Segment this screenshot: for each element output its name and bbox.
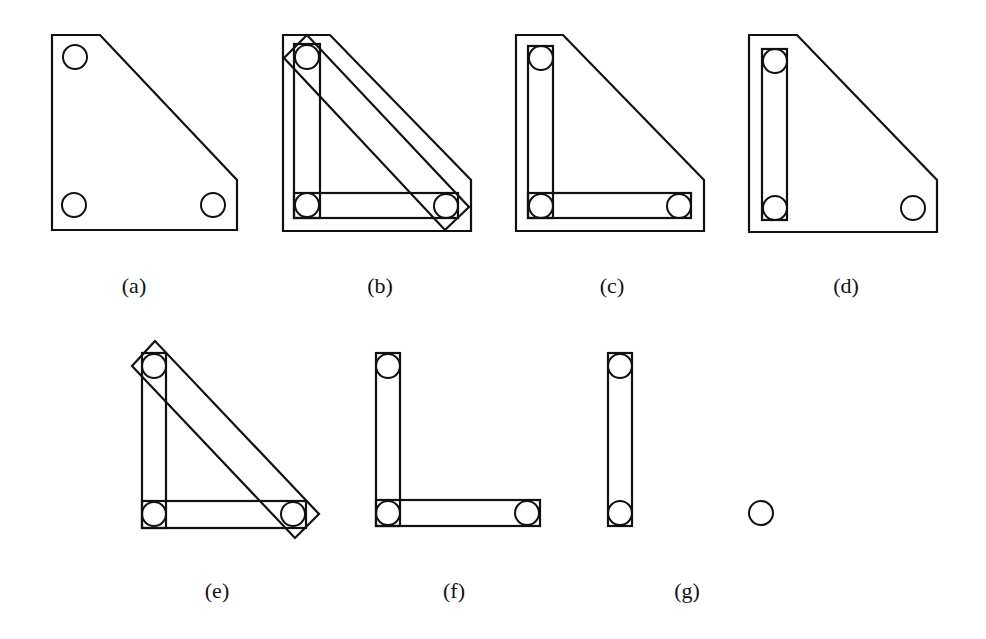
link-rectangle xyxy=(294,44,320,218)
panel-label-d: (d) xyxy=(833,273,859,299)
hole-circle xyxy=(749,501,773,525)
hole-circle xyxy=(667,194,691,218)
panel-label-a: (a) xyxy=(122,273,146,299)
panel-e xyxy=(132,341,319,538)
hole-circle xyxy=(529,46,553,70)
panel-label-b: (b) xyxy=(367,273,393,299)
diagonal-link-rectangle xyxy=(284,35,469,230)
panel-label-e: (e) xyxy=(205,578,229,604)
panel-label-f: (f) xyxy=(443,578,465,604)
panel-label-c: (c) xyxy=(600,273,624,299)
hole-circle xyxy=(295,45,319,69)
hole-circle xyxy=(63,45,87,69)
panel-b xyxy=(283,35,471,231)
hole-circle xyxy=(763,196,787,220)
panel-d xyxy=(749,35,937,232)
hole-circle xyxy=(763,49,787,73)
diagram-figure: (a) (b) (c) (d) (e) (f) (g) xyxy=(0,0,986,639)
hole-circle xyxy=(142,502,166,526)
hole-circle xyxy=(376,501,400,525)
plate-outline xyxy=(283,35,471,231)
hole-circle xyxy=(608,501,632,525)
panel-g xyxy=(608,353,773,526)
hole-circle xyxy=(608,354,632,378)
hole-circle xyxy=(901,196,925,220)
panel-label-g: (g) xyxy=(674,578,700,604)
hole-circle xyxy=(62,193,86,217)
hole-circle xyxy=(281,502,305,526)
panel-a xyxy=(52,35,237,230)
diagram-canvas xyxy=(0,0,986,639)
plate-outline xyxy=(749,35,937,232)
hole-circle xyxy=(515,501,539,525)
plate-outline xyxy=(52,35,237,230)
panel-f xyxy=(376,353,540,526)
plate-outline xyxy=(516,35,704,231)
hole-circle xyxy=(201,193,225,217)
panel-c xyxy=(516,35,704,231)
hole-circle xyxy=(529,194,553,218)
hole-circle xyxy=(434,194,458,218)
link-rectangle xyxy=(762,49,787,220)
diagonal-link-rectangle xyxy=(132,341,319,538)
hole-circle xyxy=(295,193,319,217)
hole-circle xyxy=(376,354,400,378)
hole-circle xyxy=(142,354,166,378)
